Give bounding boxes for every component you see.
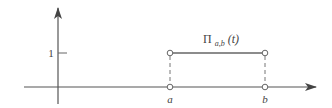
open-circle-b-top	[262, 50, 268, 56]
open-circle-a-top	[167, 50, 173, 56]
y-tick-label: 1	[48, 47, 54, 59]
function-argument: (t)	[228, 32, 239, 46]
diagram-svg: 1 a b Π a,b (t)	[0, 0, 332, 108]
function-label: Π a,b (t)	[203, 32, 239, 49]
function-subscript: a,b	[215, 39, 225, 48]
open-circle-a-bottom	[167, 84, 173, 90]
open-circle-b-bottom	[262, 84, 268, 90]
function-symbol: Π	[203, 32, 212, 46]
x-label-a: a	[167, 93, 173, 105]
rect-pulse-diagram: 1 a b Π a,b (t)	[0, 0, 332, 108]
x-label-b: b	[262, 93, 268, 105]
